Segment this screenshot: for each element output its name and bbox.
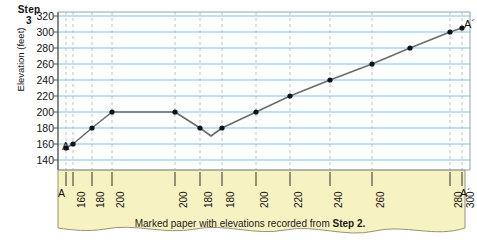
data-point xyxy=(109,109,114,114)
x-axis-tick-label: 160 xyxy=(77,191,87,208)
x-axis-tick-label: 180 xyxy=(96,191,106,208)
gridlines-group xyxy=(54,16,470,160)
x-axis-tick-label: 240 xyxy=(334,191,344,208)
figure-caption: Marked paper with elevations recorded fr… xyxy=(60,218,440,229)
data-point xyxy=(407,45,412,50)
x-axis-tick-label: 200 xyxy=(179,191,189,208)
data-point xyxy=(253,109,258,114)
x-axis-tick-label: 220 xyxy=(294,191,304,208)
data-point xyxy=(89,125,94,130)
x-axis-tick-label: A xyxy=(58,188,65,198)
data-point xyxy=(219,125,224,130)
caption-bold: Step 2. xyxy=(333,218,366,229)
data-point xyxy=(70,141,75,146)
data-point xyxy=(369,61,374,66)
x-axis-tick-label: 180 xyxy=(204,191,214,208)
data-point xyxy=(197,125,202,130)
elevation-profile-line xyxy=(66,28,462,148)
profile-plot xyxy=(0,0,477,245)
data-point xyxy=(287,93,292,98)
caption-text: Marked paper with elevations recorded fr… xyxy=(135,218,333,229)
x-axis-tick-label: 200 xyxy=(116,191,126,208)
data-point xyxy=(327,77,332,82)
dashed-guides-group xyxy=(66,12,462,170)
data-point xyxy=(172,109,177,114)
x-axis-tick-label: A´ xyxy=(460,188,471,198)
x-axis-tick-label: 200 xyxy=(260,191,270,208)
data-point xyxy=(447,29,452,34)
topographic-profile-figure: Step 3 Elevation (feet) 3203002802602402… xyxy=(0,0,477,245)
elevation-data-points-group xyxy=(63,25,464,150)
endpoint-label-end: A´ xyxy=(464,18,475,30)
x-axis-tick-label: 260 xyxy=(376,191,386,208)
x-axis-tick-label: 180 xyxy=(226,191,236,208)
endpoint-label-start: A xyxy=(62,140,69,152)
